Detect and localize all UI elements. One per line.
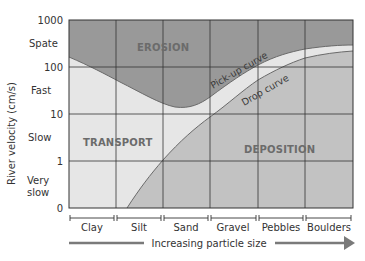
y-band-very: Very bbox=[27, 175, 49, 186]
y-band-fast: Fast bbox=[31, 85, 51, 96]
y-tick-10: 10 bbox=[50, 109, 63, 120]
y-tick-1: 1 bbox=[57, 156, 63, 167]
category-pebbles: Pebbles bbox=[262, 222, 301, 233]
category-silt: Silt bbox=[131, 222, 147, 233]
region-label-transport: TRANSPORT bbox=[83, 137, 153, 148]
x-axis-label: Increasing particle size bbox=[151, 238, 266, 249]
category-boulders: Boulders bbox=[307, 222, 351, 233]
region-label-deposition: DEPOSITION bbox=[244, 144, 315, 155]
region-label-erosion: EROSION bbox=[137, 42, 189, 53]
arrow-right-icon bbox=[344, 236, 355, 250]
y-axis-label: River velocity (cm/s) bbox=[6, 82, 17, 185]
category-clay: Clay bbox=[81, 222, 103, 233]
y-band-slow2: slow bbox=[27, 187, 49, 198]
y-band-slow: Slow bbox=[28, 132, 51, 143]
category-gravel: Gravel bbox=[217, 222, 250, 233]
y-band-spate: Spate bbox=[29, 38, 58, 49]
hjulstrom-chart: EROSION TRANSPORT DEPOSITION Pick-up cur… bbox=[0, 0, 365, 261]
category-brackets bbox=[70, 215, 351, 221]
category-sand: Sand bbox=[173, 222, 198, 233]
y-tick-0: 0 bbox=[57, 203, 63, 214]
y-tick-100: 100 bbox=[44, 62, 63, 73]
y-tick-1000: 1000 bbox=[38, 15, 63, 26]
